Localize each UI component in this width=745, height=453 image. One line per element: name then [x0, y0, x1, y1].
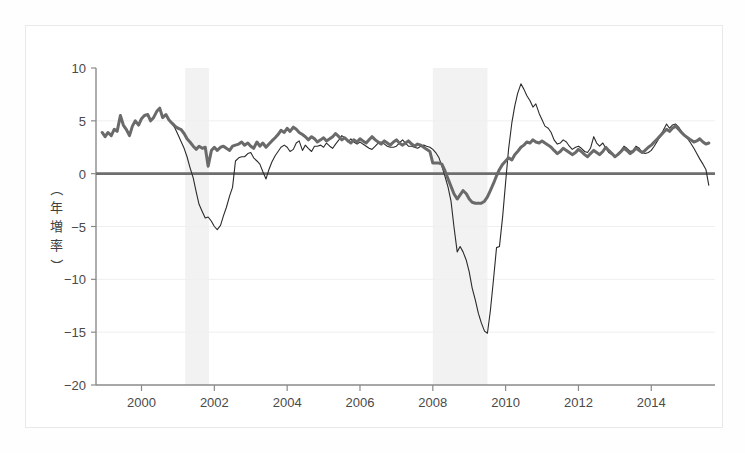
y-axis-title-char: 年 — [50, 200, 63, 215]
y-tick-label-5: 5 — [79, 114, 86, 129]
x-tick-label-2010: 2010 — [491, 395, 520, 410]
chart-svg: 1050−5−10−15−202000200220042006200820102… — [0, 0, 745, 453]
y-tick-label--10: −10 — [64, 272, 86, 287]
y-tick-label--20: −20 — [64, 378, 86, 393]
y-tick-label-10: 10 — [72, 61, 86, 76]
y-axis-title-char: ） — [49, 259, 64, 272]
x-tick-label-2008: 2008 — [418, 395, 447, 410]
x-tick-label-2002: 2002 — [200, 395, 229, 410]
x-tick-label-2006: 2006 — [346, 395, 375, 410]
x-tick-label-2012: 2012 — [564, 395, 593, 410]
y-axis-title-char: 率 — [50, 238, 63, 253]
x-tick-label-2000: 2000 — [127, 395, 156, 410]
chart-plot-area: 1050−5−10−15−202000200220042006200820102… — [0, 0, 745, 453]
y-tick-label--15: −15 — [64, 325, 86, 340]
x-tick-label-2004: 2004 — [273, 395, 302, 410]
y-axis-title-char: （ — [49, 183, 64, 196]
y-tick-label--5: −5 — [71, 220, 86, 235]
x-tick-label-2014: 2014 — [637, 395, 666, 410]
figure-container: 1050−5−10−15−202000200220042006200820102… — [0, 0, 745, 453]
y-tick-label-0: 0 — [79, 167, 86, 182]
y-axis-title-char: 増 — [50, 219, 63, 234]
